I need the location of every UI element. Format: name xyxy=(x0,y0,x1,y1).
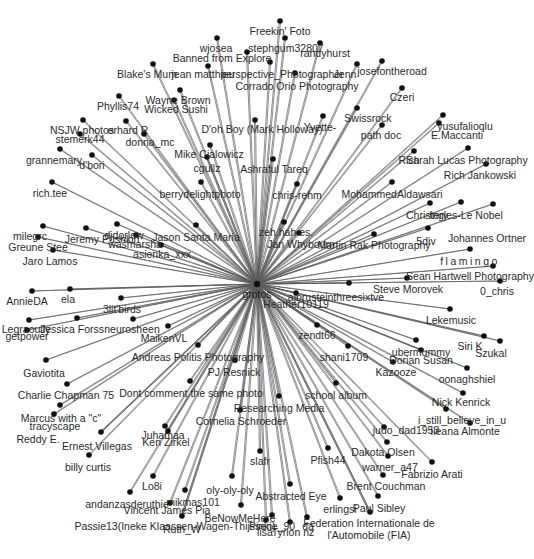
node-label[interactable]: Swissrock xyxy=(344,113,391,124)
node-dot[interactable] xyxy=(413,337,419,343)
node-label[interactable]: Mike Cialowicz xyxy=(174,149,243,160)
node-label[interactable]: Czeri xyxy=(390,92,415,103)
node-label[interactable]: AnnieDA xyxy=(6,296,47,307)
node-label[interactable]: tracyscape xyxy=(30,421,81,432)
node-label[interactable]: shani1709 xyxy=(320,352,368,363)
node-dot[interactable] xyxy=(281,219,287,225)
node-dot[interactable] xyxy=(64,381,70,387)
node-label[interactable]: Rich Jankowski xyxy=(444,170,516,181)
node-dot[interactable] xyxy=(127,489,133,495)
node-dot[interactable] xyxy=(43,357,49,363)
node-label[interactable]: Szukal xyxy=(475,348,507,359)
node-label[interactable]: Sarah Lucas Photography xyxy=(406,155,527,166)
node-label[interactable]: Greune Stee xyxy=(8,242,68,253)
node-dot[interactable] xyxy=(229,473,235,479)
node-label[interactable]: PJ Resnick xyxy=(208,367,261,378)
node-dot[interactable] xyxy=(98,429,104,435)
node-dot[interactable] xyxy=(83,225,89,231)
node-label[interactable]: path doc xyxy=(361,130,401,141)
node-dot[interactable] xyxy=(447,306,453,312)
node-dot[interactable] xyxy=(29,288,35,294)
node-label[interactable]: Nick Kenrick xyxy=(432,397,490,408)
node-dot[interactable] xyxy=(371,231,377,237)
node-label[interactable]: stemerk44 xyxy=(55,134,104,145)
node-dot[interactable] xyxy=(252,117,258,123)
node-dot[interactable] xyxy=(123,118,129,124)
node-dot[interactable] xyxy=(214,35,220,41)
node-dot[interactable] xyxy=(74,315,80,321)
node-label[interactable]: asienka_xxx xyxy=(133,249,191,260)
node-dot[interactable] xyxy=(325,445,331,451)
node-label[interactable]: Lo8i xyxy=(142,481,162,492)
node-dot[interactable] xyxy=(238,502,244,508)
node-label[interactable]: lisa xyxy=(257,527,273,538)
node-dot[interactable] xyxy=(207,142,213,148)
node-dot[interactable] xyxy=(277,18,283,24)
node-dot[interactable] xyxy=(150,473,156,479)
center-node-label[interactable]: grotos xyxy=(242,289,271,300)
node-label[interactable]: MaikenVL xyxy=(141,333,188,344)
node-label[interactable]: Ruth_W xyxy=(163,524,201,535)
node-label[interactable]: school album xyxy=(305,390,367,401)
node-label[interactable]: d'bori xyxy=(79,160,104,171)
node-label[interactable]: Ashraful Tareq xyxy=(240,164,308,175)
node-dot[interactable] xyxy=(294,181,300,187)
node-label[interactable]: E.Maccanti xyxy=(431,130,483,141)
center-node-dot[interactable] xyxy=(254,281,260,287)
node-dot[interactable] xyxy=(198,179,204,185)
node-dot[interactable] xyxy=(130,316,136,322)
node-label[interactable]: Federation Internationale de xyxy=(303,518,434,529)
node-label[interactable]: billy curtis xyxy=(65,462,111,473)
node-dot[interactable] xyxy=(187,378,193,384)
node-label[interactable]: perspective_Photographer xyxy=(220,69,343,80)
node-label[interactable]: Blake's Mum xyxy=(117,69,177,80)
node-label[interactable]: Ernest Villegas xyxy=(62,441,132,452)
node-dot[interactable] xyxy=(380,472,386,478)
node-label[interactable]: 0_chris xyxy=(480,286,514,297)
node-dot[interactable] xyxy=(67,286,73,292)
node-label[interactable]: Banned from Explore xyxy=(173,53,272,64)
node-label[interactable]: Brent Couchman xyxy=(347,481,426,492)
node-label[interactable]: zendt66 xyxy=(298,330,335,341)
node-label[interactable]: Phyllis74 xyxy=(97,101,139,112)
node-dot[interactable] xyxy=(481,333,487,339)
node-dot[interactable] xyxy=(389,179,395,185)
node-label[interactable]: donna_mc xyxy=(125,137,174,148)
node-dot[interactable] xyxy=(89,152,95,158)
node-label[interactable]: Dont comment the same photo xyxy=(119,388,263,399)
node-dot[interactable] xyxy=(86,452,92,458)
node-label[interactable]: ela xyxy=(61,294,75,305)
node-label[interactable]: cgullz xyxy=(194,163,221,174)
node-label[interactable]: Dorian Susan xyxy=(389,355,453,366)
node-label[interactable]: Cornelia Schroeder xyxy=(196,416,286,427)
node-label[interactable]: chris-rehm xyxy=(272,190,322,201)
node-dot[interactable] xyxy=(193,222,199,228)
node-dot[interactable] xyxy=(440,112,446,118)
node-dot[interactable] xyxy=(337,495,343,501)
node-label[interactable]: Researching Media xyxy=(234,403,324,414)
node-label[interactable]: slafr xyxy=(250,456,270,467)
node-label[interactable]: Andreas Politis Photography xyxy=(132,352,265,363)
node-label[interactable]: josefontheroad xyxy=(357,66,426,77)
node-dot[interactable] xyxy=(276,393,282,399)
node-dot[interactable] xyxy=(333,380,339,386)
node-label[interactable]: MohammedAldawsari xyxy=(342,189,443,200)
node-dot[interactable] xyxy=(40,223,46,229)
node-label[interactable]: erlingsi xyxy=(323,504,356,515)
node-label[interactable]: oly-oly-oly xyxy=(206,485,253,496)
node-dot[interactable] xyxy=(467,246,473,252)
node-label[interactable]: Dakota Olsen xyxy=(351,447,415,458)
node-label[interactable]: Ileana Almonte xyxy=(430,426,499,437)
node-dot[interactable] xyxy=(345,343,351,349)
node-label[interactable]: Heather10119 xyxy=(263,299,329,310)
node-label[interactable]: Corrado Orio Photography xyxy=(235,81,358,92)
node-dot[interactable] xyxy=(57,402,63,408)
node-dot[interactable] xyxy=(458,199,464,205)
node-label[interactable]: zeh.hah es. xyxy=(259,227,313,238)
node-dot[interactable] xyxy=(411,148,417,154)
node-dot[interactable] xyxy=(465,145,471,151)
node-label[interactable]: Charlie Chapman 75 xyxy=(18,390,114,401)
node-label[interactable]: oonaghshiel xyxy=(439,374,496,385)
node-dot[interactable] xyxy=(464,365,470,371)
node-dot[interactable] xyxy=(429,459,435,465)
